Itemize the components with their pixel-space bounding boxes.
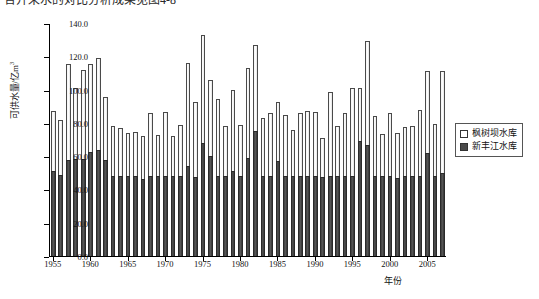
bar-segment-xinfengjiang (111, 176, 116, 256)
bar-1984 (268, 113, 273, 256)
bar-segment-fengshuba (238, 125, 243, 176)
bar-1956 (58, 120, 63, 256)
bar-1992 (328, 92, 333, 256)
bar-segment-xinfengjiang (388, 176, 393, 256)
bar-1955 (51, 111, 56, 256)
bar-segment-fengshuba (216, 99, 221, 176)
bar-segment-xinfengjiang (440, 173, 445, 256)
bar-segment-xinfengjiang (208, 156, 213, 256)
x-tick-label-1955: 1955 (36, 260, 70, 269)
legend-label-fengshuba: 枫树坝水库 (472, 129, 517, 138)
bar-1973 (186, 63, 191, 256)
bar-segment-fengshuba (283, 115, 288, 177)
legend-label-xinfengjiang: 新丰江水库 (472, 142, 517, 151)
bar-1964 (118, 128, 123, 256)
x-tick-mark-1995 (352, 257, 353, 261)
bar-1965 (126, 133, 131, 256)
y-tick-mark-140 (44, 24, 49, 25)
bar-segment-fengshuba (261, 118, 266, 176)
bar-segment-xinfengjiang (178, 176, 183, 256)
y-tick-mark-100 (44, 91, 49, 92)
bar-segment-fengshuba (81, 70, 86, 159)
x-tick-label-1970: 1970 (148, 260, 182, 269)
bar-segment-xinfengjiang (433, 176, 438, 256)
bar-segment-xinfengjiang (283, 176, 288, 256)
bar-2006 (433, 124, 438, 256)
legend-swatch-hollow-icon (460, 130, 468, 138)
y-axis-title-text: 可供水量/亿m (10, 65, 20, 120)
bar-segment-xinfengjiang (410, 176, 415, 256)
y-tick-label-100: 100.0 (69, 87, 88, 96)
bar-1995 (350, 88, 355, 256)
bar-segment-xinfengjiang (261, 176, 266, 256)
bar-segment-fengshuba (133, 132, 138, 176)
bar-segment-fengshuba (425, 71, 430, 153)
bar-segment-xinfengjiang (148, 176, 153, 256)
y-tick-label-80: 80.0 (73, 120, 88, 129)
bar-segment-xinfengjiang (335, 176, 340, 256)
bar-segment-fengshuba (223, 126, 228, 176)
bar-1962 (103, 97, 108, 256)
bar-1986 (283, 115, 288, 256)
bar-segment-fengshuba (305, 111, 310, 176)
bar-segment-xinfengjiang (403, 176, 408, 256)
bar-segment-xinfengjiang (320, 177, 325, 256)
bar-segment-fengshuba (163, 112, 168, 176)
bar-1969 (156, 135, 161, 256)
bar-segment-fengshuba (298, 113, 303, 176)
bar-segment-xinfengjiang (298, 176, 303, 256)
bar-segment-fengshuba (335, 126, 340, 176)
bar-1961 (96, 58, 101, 256)
bar-segment-xinfengjiang (395, 178, 400, 256)
bar-2002 (403, 127, 408, 256)
bar-segment-xinfengjiang (171, 176, 176, 256)
bar-1993 (335, 126, 340, 256)
bar-segment-xinfengjiang (51, 171, 56, 256)
x-tick-mark-1955 (53, 257, 54, 261)
bar-segment-xinfengjiang (231, 171, 236, 256)
bar-1989 (305, 111, 310, 256)
bar-segment-fengshuba (118, 128, 123, 176)
x-tick-mark-1975 (203, 257, 204, 261)
bar-segment-xinfengjiang (73, 159, 78, 256)
bar-segment-xinfengjiang (246, 158, 251, 256)
bar-segment-xinfengjiang (186, 166, 191, 256)
bar-1990 (313, 112, 318, 256)
bar-segment-fengshuba (358, 88, 363, 141)
bar-1996 (358, 88, 363, 256)
legend-item-fengshuba: 枫树坝水库 (460, 127, 517, 140)
bar-1958 (73, 88, 78, 256)
bar-segment-xinfengjiang (163, 176, 168, 256)
bar-1999 (380, 134, 385, 256)
bar-2001 (395, 133, 400, 256)
x-tick-mark-2005 (427, 257, 428, 261)
bar-segment-fengshuba (231, 90, 236, 172)
bar-1998 (373, 116, 378, 256)
bar-segment-fengshuba (178, 125, 183, 176)
bar-1960 (88, 64, 93, 256)
x-tick-label-1995: 1995 (335, 260, 369, 269)
y-tick-mark-60 (44, 157, 49, 158)
x-tick-label-1985: 1985 (260, 260, 294, 269)
bar-segment-xinfengjiang (156, 176, 161, 256)
bar-segment-xinfengjiang (373, 176, 378, 256)
bar-1974 (193, 102, 198, 256)
bar-segment-xinfengjiang (88, 152, 93, 256)
clipped-caption-text: 合开采水的对比分析成果见图4-8 (4, 0, 304, 7)
x-tick-label-1965: 1965 (111, 260, 145, 269)
bar-segment-fengshuba (126, 133, 131, 176)
bar-segment-fengshuba (440, 71, 445, 173)
y-tick-mark-40 (44, 190, 49, 191)
bar-segment-xinfengjiang (343, 176, 348, 256)
bar-segment-xinfengjiang (133, 176, 138, 256)
bar-1997 (365, 41, 370, 256)
bar-segment-fengshuba (96, 58, 101, 150)
bar-segment-xinfengjiang (141, 179, 146, 256)
y-axis-title: 可供水量/亿m3 (8, 31, 21, 151)
bar-1970 (163, 112, 168, 256)
bar-segment-xinfengjiang (238, 176, 243, 256)
y-tick-mark-0 (44, 257, 49, 258)
bar-segment-fengshuba (103, 97, 108, 160)
x-tick-mark-1965 (128, 257, 129, 261)
bar-1987 (291, 130, 296, 256)
